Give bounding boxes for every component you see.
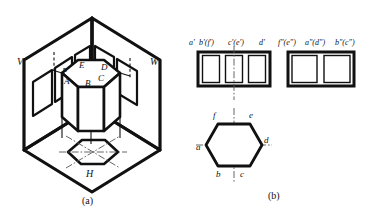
front-label-c-e-prime: c'(e') bbox=[228, 39, 244, 47]
prism-label-c: C bbox=[98, 74, 104, 83]
side-view-panel-2 bbox=[324, 56, 350, 83]
figure-canvas bbox=[0, 0, 368, 214]
prism-label-e: E bbox=[79, 61, 85, 70]
top-view-hexagon bbox=[206, 124, 262, 166]
prism-label-d: D bbox=[101, 63, 108, 72]
caption-a: (a) bbox=[82, 196, 93, 206]
top-label-e: e bbox=[249, 111, 253, 120]
top-label-a: a bbox=[196, 143, 201, 152]
hexagonal-prism bbox=[62, 60, 120, 131]
front-view-panel-1 bbox=[203, 56, 220, 83]
side-label-f-e-double-prime: f"(e") bbox=[278, 39, 296, 47]
h-plane-projected-hexagon bbox=[59, 136, 127, 168]
prism-side-front bbox=[78, 87, 104, 131]
prism-label-f: F bbox=[62, 67, 68, 76]
front-label-b-f-prime: b'(f') bbox=[199, 39, 214, 47]
top-view-group bbox=[196, 108, 272, 182]
plane-label-h: H bbox=[86, 169, 93, 179]
top-label-f: f bbox=[213, 111, 216, 120]
v-panel-1 bbox=[33, 70, 52, 116]
front-label-d-prime: d' bbox=[259, 39, 265, 47]
plane-label-v: V bbox=[17, 57, 23, 67]
top-label-c: c bbox=[240, 170, 244, 179]
front-label-a-prime: a' bbox=[189, 39, 195, 47]
side-label-b-c-double-prime: b"(c") bbox=[335, 39, 355, 47]
prism-label-a: A bbox=[64, 77, 70, 86]
top-label-d: d bbox=[264, 136, 269, 145]
side-label-a-d-double-prime: a"(d") bbox=[305, 39, 325, 47]
front-view-group bbox=[198, 46, 270, 100]
prism-label-b: B bbox=[85, 79, 91, 88]
side-view-group bbox=[288, 52, 354, 86]
front-view-panel-3 bbox=[249, 56, 266, 83]
plane-label-w: W bbox=[150, 57, 158, 67]
top-label-b: b bbox=[216, 170, 221, 179]
side-view-panel-1 bbox=[292, 56, 317, 83]
caption-b: (b) bbox=[268, 191, 280, 201]
